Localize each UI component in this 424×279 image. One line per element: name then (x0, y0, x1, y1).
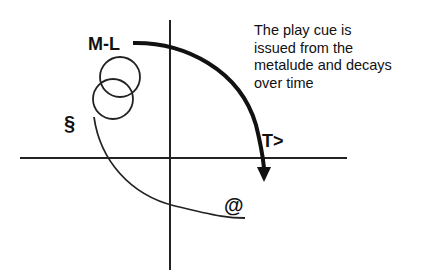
caption-line: over time (254, 75, 424, 93)
label-section: § (64, 112, 75, 134)
label-metalude: M-L (88, 34, 120, 54)
arrowhead-icon (257, 167, 271, 182)
caption-line: issued from the (254, 40, 424, 58)
upper-circle (100, 57, 140, 97)
lower-circle (93, 79, 133, 119)
caption-text: The play cue is issued from the metalude… (254, 22, 424, 92)
label-at: @ (224, 194, 244, 216)
cue-arc (133, 43, 264, 168)
label-time: T> (262, 131, 284, 151)
caption-line: The play cue is (254, 22, 424, 40)
caption-line: metalude and decays (254, 57, 424, 75)
